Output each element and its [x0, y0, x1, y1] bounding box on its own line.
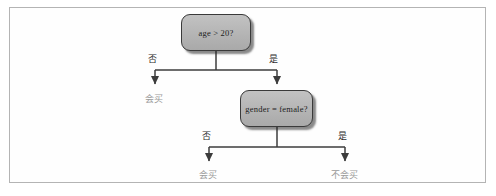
edge-label-root-no: 否	[148, 55, 157, 64]
edge-label-gender-no: 否	[202, 132, 211, 141]
decision-node-age-label: age > 20?	[199, 28, 234, 38]
decision-node-gender-label: gender = female?	[245, 104, 307, 114]
leaf-label-will-buy-bottom: 会买	[199, 171, 217, 180]
figure-container: age > 20? gender = female? 否 是 否 是 会买 会买…	[0, 0, 496, 196]
decision-node-gender[interactable]: gender = female?	[240, 90, 313, 127]
leaf-label-will-buy-left: 会买	[145, 95, 163, 104]
edge-label-root-yes: 是	[269, 55, 278, 64]
edge-label-gender-yes: 是	[338, 132, 347, 141]
leaf-label-will-not-buy: 不会买	[331, 171, 358, 180]
decision-node-age[interactable]: age > 20?	[181, 14, 251, 51]
